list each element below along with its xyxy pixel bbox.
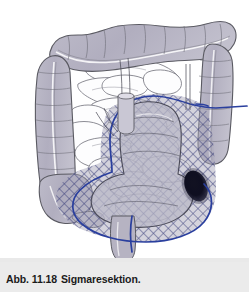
figure-caption-label: Abb. 11.18: [6, 273, 57, 285]
bowel-stump: [118, 93, 134, 134]
figure-sigmaresektion: Abb. 11.18Sigmaresektion.: [0, 0, 249, 292]
anatomical-illustration: [0, 0, 249, 264]
figure-caption-title: Sigmaresektion.: [61, 273, 141, 285]
figure-caption: Abb. 11.18Sigmaresektion.: [6, 273, 141, 285]
